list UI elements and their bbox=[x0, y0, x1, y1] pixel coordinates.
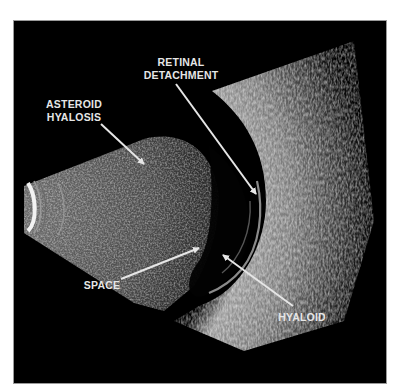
space-label: SPACE bbox=[82, 279, 122, 292]
hyaloid-label: HYALOID bbox=[274, 311, 330, 324]
asteroid-hyalosis-label: ASTEROID HYALOSIS bbox=[44, 98, 104, 123]
asteroid-hyalosis-label-line1: ASTEROID bbox=[44, 98, 104, 111]
space-arrow bbox=[121, 248, 199, 279]
hyaloid-arrow bbox=[223, 255, 293, 306]
ultrasound-figure-panel: RETINAL DETACHMENT ASTEROID HYALOSIS SPA… bbox=[13, 20, 387, 384]
asteroid-hyalosis-label-line2: HYALOSIS bbox=[44, 111, 104, 124]
retinal-detachment-label: RETINAL DETACHMENT bbox=[136, 56, 226, 81]
retinal-detachment-arrow bbox=[176, 84, 256, 194]
asteroid-hyalosis-arrow bbox=[101, 124, 144, 164]
retinal-detachment-label-line2: DETACHMENT bbox=[136, 69, 226, 82]
retinal-detachment-label-line1: RETINAL bbox=[136, 56, 226, 69]
